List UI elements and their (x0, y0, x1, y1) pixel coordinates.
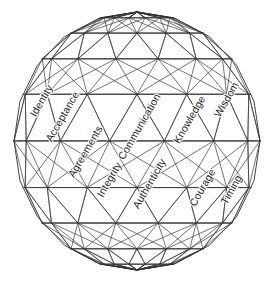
mesh-edge (166, 33, 196, 59)
mesh-edge (116, 223, 166, 249)
mesh-edge (25, 188, 42, 223)
mesh-edge (87, 59, 116, 94)
mesh-edge (129, 18, 137, 33)
label-identity: Identity (27, 82, 55, 119)
mesh-edge (25, 94, 26, 141)
mesh-edge (78, 33, 108, 59)
mesh-edge (108, 223, 158, 249)
mesh-edge (42, 223, 84, 249)
mesh-edge (137, 59, 196, 94)
label-authenticity: Authenticity (130, 156, 168, 211)
mesh-edge (25, 141, 26, 188)
mesh-edge (78, 59, 87, 94)
mesh-edge (84, 18, 129, 33)
mesh-edge (116, 223, 137, 249)
mesh-edge (71, 18, 114, 33)
mesh-edge (108, 33, 116, 59)
mesh-edge (137, 18, 145, 33)
mesh-edge (137, 249, 145, 264)
geodesic-sphere-graphic: IdentityAcceptanceAgreementsCommunicatio… (0, 0, 274, 288)
label-agreements: Agreements (65, 123, 104, 179)
mesh-edge (187, 59, 196, 94)
label-integrity: Integrity (94, 159, 124, 199)
mesh-edge (26, 141, 47, 188)
mesh-edge (78, 59, 137, 94)
mesh-edge (158, 59, 187, 94)
label-wisdom: Wisdom (211, 80, 241, 119)
mesh-edge (47, 141, 60, 188)
mesh-edge (214, 141, 227, 188)
label-knowledge: Knowledge (171, 93, 208, 145)
mesh-edge (71, 223, 78, 249)
label-timing: Timing (218, 173, 244, 207)
mesh-edge (160, 18, 203, 33)
mesh-edge (196, 223, 203, 249)
mesh-edge (129, 249, 137, 264)
mesh-edge (158, 33, 166, 59)
mesh-edge (137, 223, 196, 249)
mesh-edge (137, 223, 158, 249)
mesh-edge (137, 33, 158, 59)
mesh-edge (47, 188, 77, 223)
mesh-edge (190, 223, 232, 249)
mesh-edge (116, 33, 137, 59)
mesh-edge (145, 18, 190, 33)
mesh-edge (248, 141, 249, 188)
mesh-edge (248, 94, 249, 141)
mesh-edge (78, 188, 87, 223)
mesh-edge (158, 188, 187, 223)
mesh-edge (166, 223, 196, 249)
diagram-canvas: IdentityAcceptanceAgreementsCommunicatio… (0, 0, 274, 288)
mesh-edge (78, 223, 108, 249)
mesh-edge (78, 223, 137, 249)
